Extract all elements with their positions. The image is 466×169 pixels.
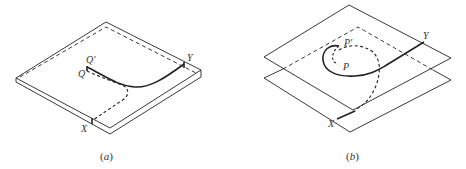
label-p-prime: P′ (343, 37, 353, 48)
label-y-a: Y (187, 52, 194, 63)
figure-canvas: Q′ Q X Y (a) P′ P X Y (b) (0, 0, 466, 169)
hidden-edge-b (283, 27, 433, 70)
panel-b (264, 5, 451, 132)
panel-a (16, 22, 201, 134)
label-q: Q (78, 68, 86, 79)
label-p: P (342, 61, 349, 72)
label-q-prime: Q′ (86, 54, 96, 65)
caption-a: (a) (100, 150, 113, 163)
hidden-edge-a (20, 27, 196, 77)
x-segment-b (337, 111, 355, 119)
upper-plane-a (16, 22, 201, 128)
label-x-b: X (327, 118, 335, 129)
curve-dashed-inner-b (333, 46, 339, 64)
caption-b: (b) (346, 150, 359, 163)
label-x-a: X (80, 123, 88, 134)
lower-plane-b (264, 69, 451, 132)
curve-solid-a (87, 64, 184, 87)
lower-plane-a (16, 77, 201, 134)
curve-dashed-outer-b (339, 46, 379, 111)
label-y-b: Y (423, 30, 430, 41)
